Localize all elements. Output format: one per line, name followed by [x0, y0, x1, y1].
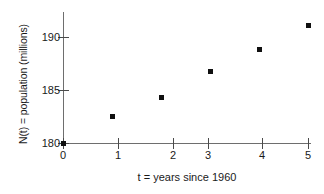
plot-area [0, 0, 324, 194]
x-axis-label: t = years since 1960 [63, 171, 311, 183]
data-point [159, 95, 164, 100]
data-point [257, 47, 262, 52]
data-point [61, 141, 66, 146]
data-point [306, 23, 311, 28]
scatter-plot-figure: N(t) = population (millions) 190 185 180… [0, 0, 324, 194]
data-point [110, 114, 115, 119]
data-point [208, 69, 213, 74]
